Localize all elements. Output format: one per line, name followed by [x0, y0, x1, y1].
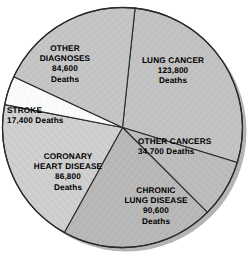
pie-chart-canvas	[0, 0, 251, 260]
pie-slices	[2, 8, 242, 248]
pie-chart: OTHER DIAGNOSES 84,600 Deaths LUNG CANCE…	[0, 0, 251, 260]
